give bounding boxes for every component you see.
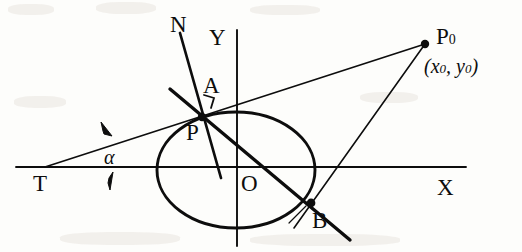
label-P: P — [186, 121, 199, 144]
tangent-line-T-P0 — [45, 44, 425, 167]
label-A: A — [203, 74, 220, 97]
geometry-figure: N Y A P T O X B α P0 (x0, y0) — [0, 0, 522, 252]
label-X: X — [437, 176, 454, 199]
ellipse-curve — [157, 112, 315, 228]
alpha-arrow-lower — [108, 172, 113, 190]
point-marker-P — [198, 113, 206, 121]
coord-comma: , — [446, 55, 456, 77]
label-Y: Y — [209, 26, 226, 49]
label-P0: P0 — [436, 25, 456, 48]
label-P0-subscript: 0 — [449, 32, 456, 47]
label-B: B — [312, 209, 327, 232]
coord-open-paren: ( — [424, 55, 431, 77]
label-P0-base: P — [436, 24, 449, 49]
coord-x: x — [431, 55, 440, 77]
label-O: O — [241, 172, 258, 195]
point-marker-P0 — [421, 40, 429, 48]
label-coordinates: (x0, y0) — [424, 56, 478, 76]
label-N: N — [170, 13, 187, 36]
alpha-arrow-upper — [101, 122, 112, 136]
coord-y: y — [456, 55, 465, 77]
normal-line-N — [180, 33, 221, 178]
label-T: T — [33, 172, 47, 195]
label-alpha: α — [104, 147, 115, 167]
point-marker-B — [307, 199, 316, 208]
coord-close-paren: ) — [471, 55, 478, 77]
